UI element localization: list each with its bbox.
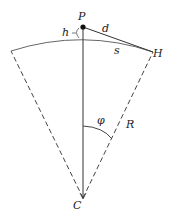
earth-horizon-diagram: P h d s H φ R C [0, 0, 172, 216]
label-s: s [114, 44, 120, 57]
left-radius-dashed [11, 51, 83, 198]
label-h: h [62, 26, 69, 39]
label-C: C [73, 199, 82, 212]
label-phi: φ [97, 114, 105, 127]
height-brace-h [77, 28, 80, 38]
observer-point-P [80, 24, 85, 29]
label-H: H [152, 47, 163, 60]
label-P: P [77, 10, 86, 23]
label-d: d [102, 22, 109, 35]
right-radius-dashed [83, 52, 153, 198]
label-R: R [125, 118, 134, 131]
earth-surface-arc [11, 40, 153, 52]
angle-arc-phi [83, 126, 112, 139]
